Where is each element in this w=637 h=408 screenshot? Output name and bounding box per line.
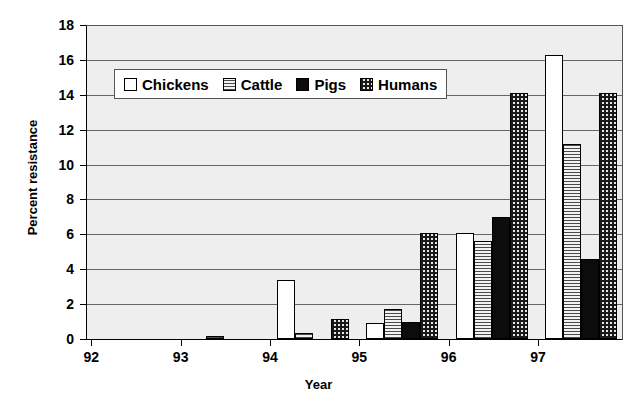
- gridline-4: [87, 269, 623, 270]
- y-tick-mark-14: [80, 95, 86, 96]
- legend-item-chickens: Chickens: [124, 77, 209, 92]
- legend-swatch-cattle-icon: [223, 78, 236, 91]
- bar-humans-97: [599, 93, 617, 339]
- legend-item-cattle: Cattle: [223, 77, 283, 92]
- legend-label-humans: Humans: [378, 77, 437, 92]
- x-tick-mark-92: [91, 339, 92, 346]
- x-tick-label-93: 93: [151, 349, 211, 365]
- legend-swatch-humans-icon: [360, 78, 373, 91]
- y-tick-mark-4: [80, 269, 86, 270]
- chart-legend: ChickensCattlePigsHumans: [114, 69, 447, 99]
- y-tick-label-18: 18: [28, 17, 74, 33]
- bar-chart: Percent resistance ChickensCattlePigsHum…: [0, 0, 637, 408]
- y-tick-label-6: 6: [28, 226, 74, 242]
- legend-swatch-pigs-icon: [296, 78, 309, 91]
- x-tick-mark-96: [449, 339, 450, 346]
- y-tick-label-4: 4: [28, 261, 74, 277]
- bar-pigs-95: [402, 322, 420, 339]
- gridline-10: [87, 165, 623, 166]
- x-axis-title: Year: [0, 377, 637, 392]
- x-tick-label-92: 92: [61, 349, 121, 365]
- legend-label-cattle: Cattle: [241, 77, 283, 92]
- bar-chickens-97: [545, 55, 563, 339]
- bar-chickens-94: [277, 280, 295, 339]
- bar-humans-95: [420, 233, 438, 339]
- y-tick-mark-10: [80, 165, 86, 166]
- gridline-18: [87, 25, 623, 26]
- y-tick-mark-6: [80, 234, 86, 235]
- x-tick-label-97: 97: [508, 349, 568, 365]
- bar-pigs-97: [581, 259, 599, 339]
- bar-chickens-95: [366, 323, 384, 339]
- legend-item-humans: Humans: [360, 77, 437, 92]
- y-tick-mark-18: [80, 25, 86, 26]
- legend-item-pigs: Pigs: [296, 77, 346, 92]
- bar-cattle-94: [295, 333, 313, 339]
- y-tick-label-10: 10: [28, 157, 74, 173]
- bar-cattle-97: [563, 144, 581, 339]
- y-tick-mark-12: [80, 130, 86, 131]
- bar-humans-96: [510, 93, 528, 339]
- y-tick-mark-0: [80, 339, 86, 340]
- x-tick-mark-95: [359, 339, 360, 346]
- bar-chickens-96: [456, 233, 474, 339]
- y-tick-label-0: 0: [28, 331, 74, 347]
- y-tick-label-14: 14: [28, 87, 74, 103]
- y-tick-mark-16: [80, 60, 86, 61]
- x-tick-label-95: 95: [329, 349, 389, 365]
- legend-label-pigs: Pigs: [314, 77, 346, 92]
- legend-swatch-chickens-icon: [124, 78, 137, 91]
- bar-cattle-93: [206, 336, 224, 339]
- x-tick-mark-97: [538, 339, 539, 346]
- x-tick-mark-94: [270, 339, 271, 346]
- gridline-2: [87, 304, 623, 305]
- y-tick-label-8: 8: [28, 191, 74, 207]
- legend-label-chickens: Chickens: [142, 77, 209, 92]
- x-tick-mark-93: [181, 339, 182, 346]
- gridline-6: [87, 234, 623, 235]
- bar-cattle-95: [384, 309, 402, 339]
- bar-pigs-96: [492, 217, 510, 339]
- y-tick-mark-2: [80, 304, 86, 305]
- y-tick-label-16: 16: [28, 52, 74, 68]
- x-tick-label-96: 96: [419, 349, 479, 365]
- gridline-8: [87, 199, 623, 200]
- bar-humans-94: [331, 319, 349, 339]
- bar-cattle-96: [474, 241, 492, 339]
- gridline-12: [87, 130, 623, 131]
- y-tick-mark-8: [80, 199, 86, 200]
- y-tick-label-2: 2: [28, 296, 74, 312]
- gridline-16: [87, 60, 623, 61]
- y-tick-label-12: 12: [28, 122, 74, 138]
- x-tick-label-94: 94: [240, 349, 300, 365]
